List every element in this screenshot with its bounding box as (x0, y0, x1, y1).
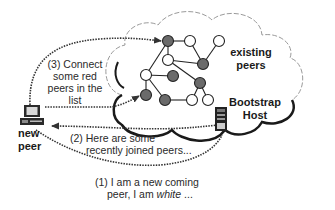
step3-caption-line4: list (40, 94, 110, 106)
step3-caption: (3) Connect some red peers in the list (40, 58, 110, 106)
step3-caption-line2: some red (40, 70, 110, 82)
step1-caption-line2: peer, I am white ... (95, 188, 199, 200)
peer-node-gray (198, 59, 209, 70)
bootstrap-host-label-line2: Host (222, 109, 288, 122)
existing-peers-label: existing peers (221, 46, 281, 71)
peer-node-white (185, 36, 196, 47)
peer-node-white (187, 95, 198, 106)
step3-caption-line3: peers in the (40, 82, 110, 94)
network-cloud (106, 12, 303, 141)
step2-arrow (52, 125, 218, 129)
step1-caption-prefix: peer, I am (107, 188, 157, 200)
new-peer-label: new peer (18, 127, 41, 152)
new-peer-label-line1: new (18, 127, 41, 140)
step2-caption-line2: recently joined peers... (70, 144, 192, 156)
step1-caption: (1) I am a new coming peer, I am white .… (95, 176, 199, 200)
new-peer-label-line2: peer (18, 140, 41, 153)
peer-node-gray (168, 71, 179, 82)
peer-node-gray (195, 78, 206, 89)
peer-node-white (214, 36, 225, 47)
step2-caption-line1: (2) Here are some (70, 132, 192, 144)
step1-caption-line1: (1) I am a new coming (95, 176, 199, 188)
peer-node-gray (163, 36, 174, 47)
bootstrap-host-label: Bootstrap Host (222, 96, 288, 121)
peer-node-white (163, 55, 174, 66)
existing-peers-label-line1: existing (221, 46, 281, 59)
peer-node-white (203, 95, 214, 106)
step1-caption-italic-white: white (157, 188, 182, 200)
new-peer-computer-icon (20, 105, 44, 125)
peer-edges (146, 41, 219, 100)
step2-caption: (2) Here are some recently joined peers.… (70, 132, 192, 156)
peer-node-white (141, 70, 152, 81)
bootstrap-host-label-line1: Bootstrap (222, 96, 288, 109)
peer-node-gray (160, 95, 171, 106)
cloud-inner-curl (116, 62, 124, 88)
existing-peers-label-line2: peers (221, 59, 281, 72)
peer-node-gray (141, 90, 152, 101)
step1-caption-suffix: ... (181, 188, 193, 200)
step3-caption-line1: (3) Connect (40, 58, 110, 70)
